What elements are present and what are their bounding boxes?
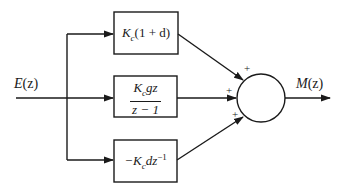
numerator-term: gz (146, 80, 158, 95)
input-label-arg: (z) (23, 76, 39, 91)
input-label: E(z) (14, 76, 38, 92)
integral-denominator: z − 1 (132, 102, 159, 117)
proportional-term: (1 + d) (135, 25, 171, 40)
proportional-block-label: Kc(1 + d) (114, 25, 178, 43)
derivative-block-label: −Kcdz−1 (114, 152, 177, 171)
summing-junction (237, 74, 285, 122)
derivative-exponent: −1 (157, 152, 167, 162)
gain-symbol: K (133, 80, 142, 95)
plus-sign-top: + (244, 62, 250, 74)
output-label: M(z) (296, 76, 323, 92)
plus-sign-middle: + (226, 84, 232, 96)
derivative-to-sum (177, 117, 243, 160)
integral-fraction: Kcgz z − 1 (130, 81, 160, 117)
integral-block-label: Kcgz z − 1 (114, 80, 177, 117)
output-label-arg: (z) (308, 76, 324, 91)
negative-gain-symbol: −K (124, 153, 141, 168)
gain-symbol: K (122, 25, 131, 40)
derivative-term: dz (146, 153, 158, 168)
output-label-symbol: M (296, 76, 308, 91)
plus-sign-bottom: + (232, 108, 238, 120)
proportional-to-sum (178, 34, 243, 80)
integral-numerator: Kcgz (130, 81, 160, 102)
input-label-symbol: E (14, 76, 23, 91)
